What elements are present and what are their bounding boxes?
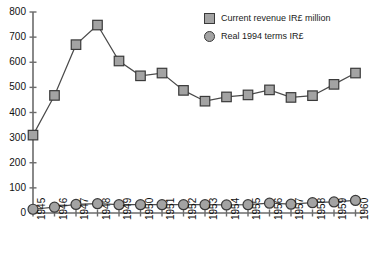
legend-circle-marker-icon [204,31,215,42]
data-point-marker [71,40,81,50]
x-axis-tick-label: 1952 [188,198,198,220]
data-point-marker [286,93,296,103]
y-axis-tick-label: 600 [0,57,26,67]
data-point-marker [222,92,232,102]
data-point-marker [136,71,146,81]
legend-item-current-revenue: Current revenue IR£ million [204,11,331,25]
y-axis-tick-label: 200 [0,158,26,168]
x-axis-tick-label: 1954 [231,198,241,220]
legend-label-real-terms: Real 1994 terms IR£ [221,31,304,42]
legend-label-current-revenue: Current revenue IR£ million [221,13,331,24]
y-axis-tick-label: 500 [0,82,26,92]
legend-square-marker-icon [204,13,215,24]
data-point-marker [351,68,361,78]
y-axis-tick-label: 800 [0,7,26,17]
x-axis-tick-label: 1957 [295,198,305,220]
x-axis-tick-label: 1958 [317,198,327,220]
x-axis-tick-label: 1959 [338,198,348,220]
chart-container: Current revenue IR£ million Real 1994 te… [0,0,386,258]
data-point-marker [265,85,275,95]
x-axis-tick-label: 1946 [59,198,69,220]
y-axis-tick-label: 400 [0,108,26,118]
data-point-marker [157,68,167,78]
x-axis-tick-label: 1949 [123,198,133,220]
x-axis-tick-label: 1947 [80,198,90,220]
data-point-marker [50,91,60,101]
x-axis-tick-label: 1953 [209,198,219,220]
legend-item-real-terms: Real 1994 terms IR£ [204,29,331,43]
x-axis-tick-label: 1956 [274,198,284,220]
y-axis-tick-label: 100 [0,183,26,193]
x-axis-tick-label: 1950 [145,198,155,220]
y-axis-tick-label: 700 [0,32,26,42]
data-point-marker [93,20,103,30]
data-point-marker [28,130,38,140]
data-point-marker [308,91,318,101]
x-axis-tick-label: 1945 [37,198,47,220]
y-axis-tick-label: 0 [0,208,26,218]
x-axis-tick-label: 1951 [166,198,176,220]
data-point-marker [114,56,124,66]
y-axis-tick-label: 300 [0,133,26,143]
x-axis-tick-label: 1960 [360,198,370,220]
x-axis-tick-label: 1948 [102,198,112,220]
data-point-marker [329,80,339,90]
chart-legend: Current revenue IR£ million Real 1994 te… [204,11,331,43]
data-point-marker [179,86,189,96]
data-point-marker [243,90,253,100]
data-point-marker [200,96,210,106]
x-axis-tick-label: 1955 [252,198,262,220]
